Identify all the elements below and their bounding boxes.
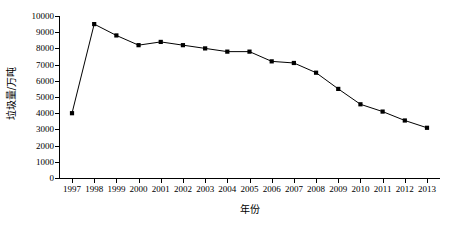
x-axis-tick-label: 2011 (374, 184, 392, 194)
x-axis-tick-label: 2000 (130, 184, 148, 194)
data-point-marker (247, 50, 251, 54)
y-axis-tick-label: 4000 (36, 109, 54, 118)
y-axis-tick-mark (55, 113, 59, 114)
data-point-marker (225, 50, 229, 54)
x-axis-tick-mark (183, 179, 184, 183)
data-point-marker (70, 111, 74, 115)
data-point-marker (181, 43, 185, 47)
y-axis-tick-label: 5000 (36, 93, 54, 102)
x-axis-tick-label: 2006 (263, 184, 281, 194)
x-axis-tick-label: 2013 (418, 184, 436, 194)
x-axis-tick-label: 2009 (329, 184, 347, 194)
data-point-marker (314, 71, 318, 75)
y-axis-tick-label: 2000 (36, 141, 54, 150)
data-point-marker (203, 46, 207, 50)
data-point-marker (270, 59, 274, 63)
y-axis-tick-mark (55, 162, 59, 163)
x-axis-tick-mark (316, 179, 317, 183)
y-axis-tick-mark (55, 65, 59, 66)
plot-area (59, 16, 440, 178)
data-point-marker (159, 40, 163, 44)
x-axis-tick-label: 2001 (152, 184, 170, 194)
y-axis-tick-label: 0 (50, 174, 55, 183)
y-axis-tick-labels: 0100020003000400050006000700080009000100… (18, 0, 56, 186)
y-axis-tick-mark (55, 32, 59, 33)
y-axis-tick-label: 10000 (32, 12, 55, 21)
x-axis-tick-mark (94, 179, 95, 183)
y-axis-tick-mark (55, 16, 59, 17)
x-axis-tick-label: 2010 (351, 184, 369, 194)
x-axis-title: 年份 (59, 201, 440, 216)
data-series-group (59, 16, 440, 178)
y-axis-tick-mark (55, 146, 59, 147)
data-point-marker (358, 102, 362, 106)
x-axis-tick-mark (227, 179, 228, 183)
x-axis-tick-mark (116, 179, 117, 183)
x-axis-tick-mark (338, 179, 339, 183)
x-axis-tick-mark (272, 179, 273, 183)
x-axis-tick-label: 2005 (241, 184, 259, 194)
x-axis-tick-mark (205, 179, 206, 183)
x-axis-tick-label: 2008 (307, 184, 325, 194)
data-point-marker (336, 87, 340, 91)
x-axis-tick-label: 1997 (63, 184, 81, 194)
series-line (72, 24, 427, 128)
y-axis-tick-label: 7000 (36, 60, 54, 69)
x-axis-tick-label: 2003 (196, 184, 214, 194)
x-axis-tick-mark (405, 179, 406, 183)
x-axis-tick-label: 1999 (107, 184, 125, 194)
y-axis-tick-label: 6000 (36, 76, 54, 85)
y-axis-tick-mark (55, 48, 59, 49)
x-axis-tick-label: 2012 (396, 184, 414, 194)
x-axis-tick-label: 2002 (174, 184, 192, 194)
x-axis-tick-label: 2004 (218, 184, 236, 194)
x-axis-tick-mark (427, 179, 428, 183)
x-axis-tick-mark (72, 179, 73, 183)
x-axis-tick-mark (250, 179, 251, 183)
y-axis-title-label: 垃圾量/万吨 (4, 66, 19, 119)
x-axis-tick-mark (139, 179, 140, 183)
data-point-marker (114, 33, 118, 37)
y-axis-tick-mark (55, 97, 59, 98)
y-axis-tick-label: 1000 (36, 157, 54, 166)
waste-volume-line-chart: 垃圾量/万吨 010002000300040005000600070008000… (0, 0, 462, 227)
data-point-marker (292, 61, 296, 65)
y-axis-tick-label: 3000 (36, 125, 54, 134)
x-axis-tick-mark (161, 179, 162, 183)
x-axis-tick-mark (383, 179, 384, 183)
data-point-marker (403, 118, 407, 122)
x-axis-tick-label: 1998 (85, 184, 103, 194)
x-axis-tick-mark (360, 179, 361, 183)
data-point-marker (92, 22, 96, 26)
data-point-marker (136, 43, 140, 47)
x-axis-tick-labels: 1997199819992000200120022003200420052006… (59, 184, 440, 198)
x-axis-tick-label: 2007 (285, 184, 303, 194)
y-axis-tick-label: 9000 (36, 28, 54, 37)
data-point-marker (381, 109, 385, 113)
y-axis-tick-mark (55, 178, 59, 179)
y-axis-tick-label: 8000 (36, 44, 54, 53)
data-point-marker (425, 126, 429, 130)
y-axis-tick-mark (55, 81, 59, 82)
x-axis-tick-mark (294, 179, 295, 183)
y-axis-tick-mark (55, 129, 59, 130)
